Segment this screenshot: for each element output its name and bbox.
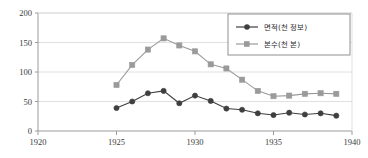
data-point	[208, 98, 213, 103]
data-point	[114, 105, 119, 110]
data-point	[192, 49, 197, 54]
data-point	[287, 110, 292, 115]
data-point	[255, 111, 260, 116]
data-point	[271, 94, 276, 99]
y-tick-label: 200	[19, 8, 32, 18]
data-point	[302, 91, 307, 96]
data-point	[287, 93, 292, 98]
data-point	[177, 101, 182, 106]
data-point	[334, 113, 339, 118]
data-point	[224, 66, 229, 71]
data-point	[334, 91, 339, 96]
data-point	[145, 91, 150, 96]
data-point	[177, 43, 182, 48]
line-chart: 19201925193019351940 050100150200 면적(천 정…	[0, 0, 368, 158]
x-tick-label: 1935	[265, 137, 282, 147]
data-point	[255, 88, 260, 93]
x-tick-label: 1925	[108, 137, 125, 147]
chart-container: 19201925193019351940 050100150200 면적(천 정…	[0, 0, 368, 158]
data-point	[192, 93, 197, 98]
data-point	[318, 91, 323, 96]
data-point	[240, 107, 245, 112]
data-point	[114, 82, 119, 87]
x-tick-label: 1930	[187, 137, 204, 147]
data-point	[130, 99, 135, 104]
legend-marker	[244, 24, 250, 30]
data-point	[161, 36, 166, 41]
legend-marker	[244, 41, 250, 47]
data-point	[161, 88, 166, 93]
chart-legend: 면적(천 정보)본수(천 본)	[228, 14, 350, 55]
legend-label: 면적(천 정보)	[264, 23, 307, 32]
x-tick-label: 1940	[344, 137, 361, 147]
data-point	[318, 111, 323, 116]
data-point	[208, 62, 213, 67]
data-point	[302, 112, 307, 117]
y-tick-label: 100	[19, 67, 32, 77]
y-tick-label: 50	[24, 97, 33, 107]
data-point	[224, 106, 229, 111]
legend-box	[228, 14, 350, 55]
data-point	[271, 112, 276, 117]
x-tick-label: 1920	[30, 137, 47, 147]
data-point	[145, 47, 150, 52]
y-tick-label: 0	[28, 126, 32, 136]
y-tick-label: 150	[19, 38, 32, 48]
legend-label: 본수(천 본)	[264, 40, 300, 49]
data-point	[240, 77, 245, 82]
data-point	[130, 62, 135, 67]
